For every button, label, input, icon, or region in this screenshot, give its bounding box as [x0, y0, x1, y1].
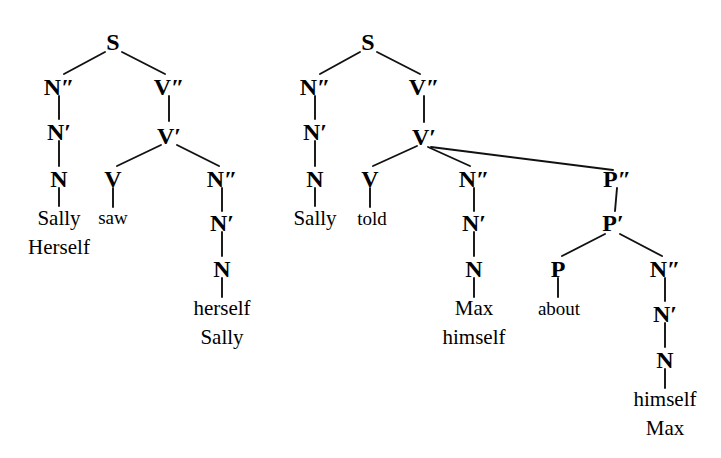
node-left-vbar2: V″	[154, 74, 185, 100]
node-right-pbar1: P′	[602, 210, 623, 236]
edge-pbar1-to-pobject-nbar2	[620, 234, 662, 256]
leaf-right-preposition: about	[538, 298, 581, 319]
leaf-left-object-line1: herself	[193, 296, 250, 320]
leaf-left-subject-line1: Sally	[37, 206, 81, 230]
node-left-v: V	[104, 166, 122, 192]
leaf-left-subject-line2: Herself	[28, 235, 90, 259]
leaf-right-pobject-line1: himself	[634, 387, 697, 411]
node-right-vbar1: V′	[412, 124, 436, 150]
tree-canvas: S N″ N′ N V″ V′ V N″ N′ N Sally Herself …	[0, 0, 721, 458]
node-right-object-nbar1: N′	[462, 210, 486, 236]
node-left-subject-nbar1: N′	[47, 119, 71, 145]
node-right-subject-nbar2: N″	[300, 74, 331, 100]
leaf-right-object-line2: himself	[443, 325, 506, 349]
leaf-right-subject: Sally	[293, 206, 337, 230]
node-right-subject-n: N	[306, 166, 324, 192]
node-left-subject-nbar2: N″	[44, 74, 75, 100]
leaf-right-pobject-line2: Max	[646, 416, 685, 440]
edge-right-vbar1-to-v	[373, 146, 417, 166]
node-right-s: S	[361, 29, 374, 55]
leaf-left-verb: saw	[98, 207, 128, 228]
node-left-object-nbar2: N″	[207, 166, 238, 192]
node-right-subject-nbar1: N′	[303, 119, 327, 145]
node-right-vbar2: V″	[409, 74, 440, 100]
node-right-pobject-n: N	[656, 347, 674, 373]
edge-vbar1-to-v	[117, 145, 161, 166]
node-right-v: V	[361, 166, 379, 192]
tree-left-edges	[59, 52, 222, 297]
syntax-tree-figure: S N″ N′ N V″ V′ V N″ N′ N Sally Herself …	[0, 0, 721, 458]
node-right-p: P	[551, 256, 566, 282]
edge-s-to-vbar2	[122, 52, 165, 74]
leaf-left-object-line2: Sally	[200, 325, 244, 349]
node-left-object-n: N	[213, 256, 231, 282]
tree-right: S N″ N′ N V″ V′ V N″ N′ N P″ P′ P N″ N′ …	[293, 29, 696, 440]
tree-left: S N″ N′ N V″ V′ V N″ N′ N Sally Herself …	[28, 29, 250, 349]
edge-pbar1-to-p	[562, 234, 605, 256]
leaf-right-verb: told	[357, 208, 387, 229]
node-left-vbar1: V′	[157, 123, 181, 149]
edge-vbar1-to-object-nbar2	[177, 145, 219, 166]
leaf-right-object-line1: Max	[455, 296, 494, 320]
edge-s-to-subject-nbar2	[64, 52, 105, 74]
node-right-object-n: N	[465, 256, 483, 282]
edge-right-s-to-subject-nbar2	[320, 52, 360, 74]
node-right-pbar2: P″	[603, 166, 631, 192]
node-right-pobject-nbar1: N′	[653, 301, 677, 327]
node-left-s: S	[106, 29, 119, 55]
node-left-object-nbar1: N′	[210, 210, 234, 236]
node-right-pobject-nbar2: N″	[650, 256, 681, 282]
node-right-object-nbar2: N″	[459, 166, 490, 192]
edge-right-s-to-vbar2	[377, 52, 420, 74]
node-left-subject-n: N	[50, 166, 68, 192]
